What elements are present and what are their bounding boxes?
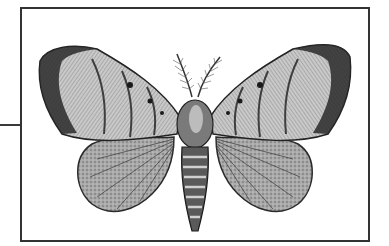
left-hindwing: [78, 137, 174, 211]
abdomen: [182, 147, 209, 231]
right-hindwing: [216, 137, 312, 211]
figure-frame: [20, 7, 370, 242]
antennae: [173, 54, 222, 97]
right-forewing: [210, 45, 351, 141]
left-forewing: [39, 46, 180, 140]
moth-illustration: [22, 9, 368, 240]
leader-line: [0, 124, 21, 126]
